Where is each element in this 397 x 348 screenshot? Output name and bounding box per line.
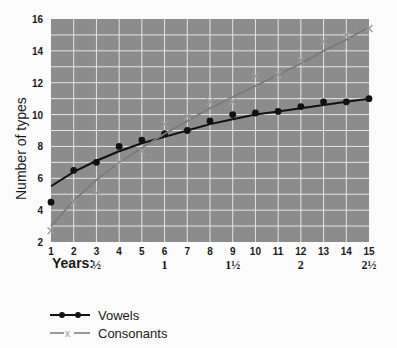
- data-point-dot: [229, 111, 236, 118]
- vowels-line-dot-icon: [50, 310, 90, 320]
- legend-item-consonants: x Consonants: [50, 324, 167, 342]
- x-tick-label: 8: [207, 246, 213, 257]
- consonants-line-x-icon: x: [50, 328, 90, 338]
- age-label: 2½: [362, 258, 377, 272]
- x-axis-ticks: 123456789101112131415: [48, 246, 375, 257]
- data-point-dot: [275, 108, 282, 115]
- age-label: 1½: [225, 258, 240, 272]
- legend-item-vowels: Vowels: [50, 306, 167, 324]
- data-point-dot: [366, 95, 373, 102]
- y-tick-label: 14: [32, 46, 44, 57]
- age-label: 1: [162, 258, 168, 272]
- x-tick-label: 11: [273, 246, 284, 257]
- legend-label-vowels: Vowels: [98, 308, 139, 323]
- legend: Vowels x Consonants: [50, 306, 167, 342]
- data-point-dot: [70, 167, 77, 174]
- y-tick-label: 8: [37, 141, 43, 152]
- y-tick-label: 6: [37, 173, 43, 184]
- data-point-dot: [320, 98, 327, 105]
- chart: 246810121416 123456789101112131415 ½11½2…: [0, 0, 397, 300]
- svg-text:x: x: [65, 328, 70, 338]
- y-tick-label: 4: [37, 205, 43, 216]
- data-point-dot: [207, 118, 214, 125]
- x-tick-label: 12: [295, 246, 307, 257]
- age-labels: ½11½22½: [92, 258, 377, 272]
- x-tick-label: 10: [250, 246, 262, 257]
- x-tick-label: 13: [318, 246, 330, 257]
- y-tick-label: 2: [37, 237, 43, 248]
- y-tick-label: 16: [32, 14, 44, 25]
- data-point-dot: [184, 127, 191, 134]
- age-label: 2: [298, 258, 304, 272]
- x-tick-label: 14: [341, 246, 353, 257]
- x-tick-label: 5: [139, 246, 145, 257]
- x-tick-label: 15: [363, 246, 375, 257]
- data-point-dot: [116, 143, 123, 150]
- x-axis-label: Years:: [52, 255, 94, 271]
- x-tick-label: 6: [162, 246, 168, 257]
- x-tick-label: 3: [94, 246, 100, 257]
- y-axis-label: Number of types: [13, 97, 29, 200]
- y-axis-ticks: 246810121416: [32, 14, 44, 248]
- data-point-dot: [138, 137, 145, 144]
- data-point-dot: [297, 103, 304, 110]
- y-tick-label: 12: [32, 78, 44, 89]
- data-point-dot: [93, 159, 100, 166]
- x-tick-label: 7: [185, 246, 191, 257]
- data-point-dot: [252, 110, 259, 117]
- data-point-dot: [48, 199, 55, 206]
- data-point-dot: [343, 98, 350, 105]
- legend-label-consonants: Consonants: [98, 326, 167, 341]
- x-tick-label: 4: [116, 246, 122, 257]
- x-tick-label: 9: [230, 246, 236, 257]
- y-tick-label: 10: [32, 110, 44, 121]
